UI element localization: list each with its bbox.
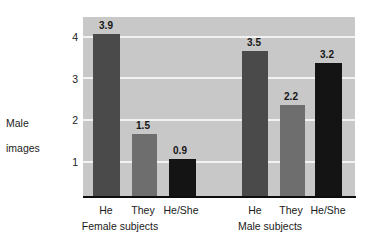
bar-value-male-heshe: 3.2 (307, 49, 347, 60)
bar-female-heshe (169, 159, 196, 197)
bar-female-he (93, 34, 120, 197)
x-group-label-female-subjects: Female subjects (55, 220, 185, 232)
bar-value-female-they: 1.5 (123, 120, 163, 131)
y-tick-label-1: 1 (62, 157, 78, 168)
plot-area (83, 17, 355, 197)
bar-male-he (242, 51, 268, 197)
gridline-4 (83, 36, 355, 38)
y-tick-label-4: 4 (62, 32, 78, 43)
bar-male-they (280, 105, 305, 197)
bar-value-male-he: 3.5 (234, 37, 274, 48)
x-category-label-male-heshe: He/She (305, 204, 351, 216)
y-axis-label: Male images (6, 104, 62, 167)
bar-female-they (132, 134, 157, 197)
x-category-label-female-heshe: He/She (158, 204, 204, 216)
y-axis-label-line-1: Male (6, 117, 62, 130)
x-axis-line (83, 196, 356, 198)
y-tick-label-2: 2 (62, 115, 78, 126)
bar-value-female-heshe: 0.9 (160, 145, 200, 156)
bar-value-female-he: 3.9 (86, 20, 126, 31)
x-group-label-male-subjects: Male subjects (205, 220, 335, 232)
y-tick-label-3: 3 (62, 74, 78, 85)
bar-male-heshe (315, 63, 342, 197)
bar-chart-figure: Male images 4 3 2 1 3.9 1.5 0.9 3.5 2.2 … (0, 0, 372, 248)
bar-value-male-they: 2.2 (271, 91, 311, 102)
y-axis-label-line-2: images (6, 142, 62, 155)
